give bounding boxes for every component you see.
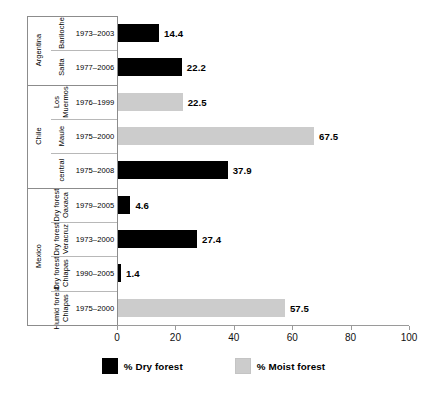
- row-years-cell: 1976–1999: [73, 85, 117, 119]
- legend-label-moist-forest: % Moist forest: [257, 361, 325, 372]
- row-years-cell: 1979–2005: [73, 188, 117, 222]
- country-group-label: Mexico: [35, 244, 44, 268]
- country-group-cell: Mexico: [27, 188, 51, 325]
- bar: [117, 299, 285, 317]
- legend: % Dry forest % Moist forest: [0, 358, 427, 374]
- legend-item-moist-forest: % Moist forest: [235, 358, 325, 374]
- row-years-label: 1973–2003: [76, 29, 114, 38]
- figure: Bariloche1973–200314.4Salta1977–200622.2…: [0, 0, 427, 396]
- row-plot-cell: 37.9: [117, 153, 409, 187]
- row-site-cell: LosMuermos: [51, 85, 73, 119]
- row-years-cell: 1990–2005: [73, 256, 117, 290]
- table-rule: [27, 16, 117, 17]
- bar-value-label: 27.4: [202, 234, 221, 245]
- row-plot-cell: 57.5: [117, 291, 409, 325]
- table-rule-vertical: [117, 16, 118, 325]
- bar: [117, 24, 159, 42]
- row-years-label: 1975–2000: [76, 132, 114, 141]
- chart-row: Dry forestOaxaca1979–20054.6: [27, 188, 409, 222]
- bar-value-label: 1.4: [126, 268, 140, 279]
- x-axis-tick-label: 60: [287, 332, 298, 343]
- row-plot-cell: 67.5: [117, 119, 409, 153]
- table-rule: [51, 119, 117, 120]
- chart-row: LosMuermos1976–199922.5: [27, 85, 409, 119]
- row-years-cell: 1975–2000: [73, 291, 117, 325]
- bar: [117, 127, 314, 145]
- bar: [117, 161, 228, 179]
- legend-swatch-dry-forest: [102, 358, 118, 374]
- row-plot-cell: 14.4: [117, 16, 409, 50]
- chart-row: Salta1977–200622.2: [27, 50, 409, 84]
- row-years-cell: 1973–2003: [73, 16, 117, 50]
- x-axis-tick: [409, 326, 410, 330]
- row-plot-cell: 22.2: [117, 50, 409, 84]
- table-rule: [27, 85, 117, 86]
- x-axis-tick-label: 100: [401, 332, 418, 343]
- bar: [117, 230, 197, 248]
- row-years-label: 1979–2005: [76, 200, 114, 209]
- x-axis-tick: [234, 326, 235, 330]
- row-years-cell: 1973–2000: [73, 222, 117, 256]
- chart-row: Bariloche1973–200314.4: [27, 16, 409, 50]
- chart-row: Maule1975–200067.5: [27, 119, 409, 153]
- row-site-label: Humid forestChiapas: [53, 278, 70, 338]
- table-rule: [51, 256, 117, 257]
- bar-value-label: 14.4: [164, 28, 183, 39]
- row-site-cell: Humid forestChiapas: [51, 291, 73, 325]
- bar-value-label: 22.2: [187, 62, 206, 73]
- row-years-cell: 1975–2008: [73, 153, 117, 187]
- row-plot-cell: 22.5: [117, 85, 409, 119]
- row-years-label: 1973–2000: [76, 235, 114, 244]
- row-site-label: Maule: [58, 126, 67, 147]
- x-axis-tick: [351, 326, 352, 330]
- table-rule: [51, 222, 117, 223]
- row-years-label: 1976–1999: [76, 97, 114, 106]
- country-group-cell: Argentina: [27, 16, 51, 85]
- country-group-cell: Chile: [27, 85, 51, 188]
- plot-and-table-grid: Bariloche1973–200314.4Salta1977–200622.2…: [27, 16, 409, 325]
- chart-row: Dry forestVeracruz1973–200027.4: [27, 222, 409, 256]
- x-axis-tick-label: 80: [345, 332, 356, 343]
- row-site-label: Bariloche: [58, 17, 67, 49]
- chart-area: Bariloche1973–200314.4Salta1977–200622.2…: [0, 0, 427, 340]
- x-axis-tick-label: 20: [170, 332, 181, 343]
- row-plot-cell: 27.4: [117, 222, 409, 256]
- legend-swatch-moist-forest: [235, 358, 251, 374]
- country-group-label: Chile: [35, 127, 44, 144]
- bar-value-label: 57.5: [290, 302, 309, 313]
- row-plot-cell: 1.4: [117, 256, 409, 290]
- row-years-label: 1975–2000: [76, 303, 114, 312]
- row-site-cell: Bariloche: [51, 16, 73, 50]
- country-group-label: Argentina: [35, 34, 44, 67]
- table-rule: [51, 291, 117, 292]
- row-years-cell: 1977–2006: [73, 50, 117, 84]
- bar: [117, 58, 182, 76]
- x-axis-tick: [292, 326, 293, 330]
- chart-row: Dry forestChiapas1990–20051.4: [27, 256, 409, 290]
- bar-value-label: 67.5: [319, 131, 338, 142]
- row-years-cell: 1975–2000: [73, 119, 117, 153]
- row-years-label: 1990–2005: [76, 269, 114, 278]
- table-rule: [27, 325, 117, 326]
- row-years-label: 1975–2008: [76, 166, 114, 175]
- row-site-cell: Maule: [51, 119, 73, 153]
- bar: [117, 93, 183, 111]
- x-axis-tick-label: 0: [114, 332, 120, 343]
- chart-row: Humid forestChiapas1975–200057.5: [27, 291, 409, 325]
- row-years-label: 1977–2006: [76, 63, 114, 72]
- bar-value-label: 22.5: [188, 96, 207, 107]
- x-axis-tick: [175, 326, 176, 330]
- row-plot-cell: 4.6: [117, 188, 409, 222]
- legend-item-dry-forest: % Dry forest: [102, 358, 183, 374]
- table-rule: [51, 153, 117, 154]
- x-axis: 020406080100: [117, 325, 409, 326]
- chart-row: central1975–200837.9: [27, 153, 409, 187]
- x-axis-tick-label: 40: [228, 332, 239, 343]
- legend-label-dry-forest: % Dry forest: [124, 361, 183, 372]
- bar: [117, 196, 130, 214]
- table-rule: [51, 50, 117, 51]
- x-axis-tick: [117, 326, 118, 330]
- table-rule: [27, 188, 117, 189]
- table-rule-vertical: [27, 16, 28, 325]
- bar-value-label: 4.6: [135, 199, 149, 210]
